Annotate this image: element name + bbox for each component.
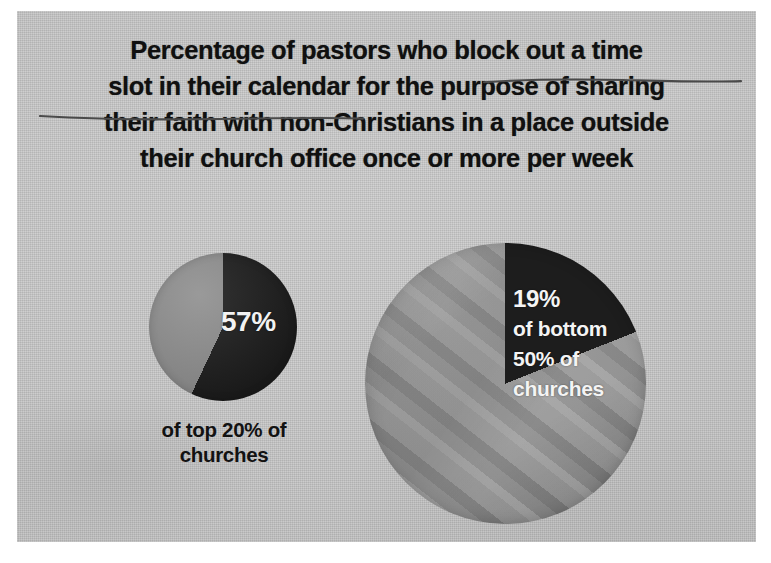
pie-slice-label-57-percent: 57% <box>221 307 316 337</box>
caption-left-line-2: churches <box>113 442 335 467</box>
caption-right-line-3: churches <box>513 374 663 404</box>
caption-left-line-1: of top 20% of <box>113 417 335 442</box>
pie-caption-bottom-50-percent: 19% of bottom 50% of churches <box>513 284 663 404</box>
pie-slice-label-19-percent: 19% <box>513 284 663 314</box>
figure-root: Percentage of pastors who block out a ti… <box>0 0 771 563</box>
caption-right-line-1: of bottom <box>513 314 663 344</box>
scanned-page-panel: Percentage of pastors who block out a ti… <box>17 11 756 542</box>
title-line-1: Percentage of pastors who block out a ti… <box>17 32 756 68</box>
page-title: Percentage of pastors who block out a ti… <box>17 32 756 176</box>
title-line-3: their faith with non-Christians in a pla… <box>17 104 756 140</box>
title-line-2: slot in their calendar for the purpose o… <box>17 68 756 104</box>
title-line-4: their church office once or more per wee… <box>17 140 756 176</box>
pie-caption-top-20-percent: of top 20% of churches <box>113 417 335 467</box>
caption-right-line-2: 50% of <box>513 344 663 374</box>
